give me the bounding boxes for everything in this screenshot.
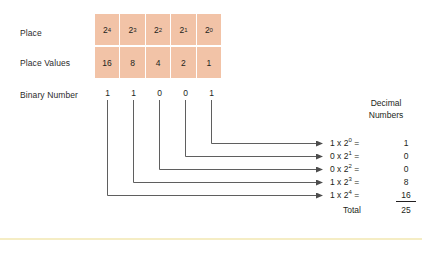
place-base-4: 2	[205, 25, 210, 35]
place-value-cell-3: 2	[171, 47, 195, 78]
binary-place-value-figure: Place Place Values Binary Number 24 23 2…	[0, 0, 422, 253]
binary-digit-3: 0	[180, 88, 192, 98]
connector-bit-2	[160, 100, 323, 170]
equation-op-2: x 2	[335, 164, 349, 174]
total-label: Total	[343, 205, 361, 215]
binary-digit-4: 1	[206, 88, 218, 98]
equation-value-2: 0	[396, 164, 416, 174]
equation-expression-3: 1 x 23 =	[330, 177, 359, 187]
row-label-binary-number: Binary Number	[20, 90, 78, 100]
equation-equals-3: =	[352, 177, 359, 187]
equation-value-1: 0	[396, 151, 416, 161]
place-base-2: 2	[154, 25, 159, 35]
total-value: 25	[396, 205, 416, 215]
place-value-cell-4: 1	[197, 47, 221, 78]
place-cell-4: 20	[197, 14, 221, 45]
connector-bit-1	[186, 100, 323, 157]
connector-bit-0	[212, 100, 323, 144]
equation-op-3: x 2	[335, 177, 349, 187]
binary-digit-2: 0	[154, 88, 166, 98]
place-value-table: 24 23 22 21 20 16 8 4 2 1	[95, 14, 221, 78]
equation-row-4: 1 x 24 = 16	[330, 190, 416, 203]
row-label-place: Place	[20, 28, 42, 38]
row-label-place-values: Place Values	[20, 58, 70, 68]
connector-bit-4	[108, 100, 323, 196]
equation-op-0: x 2	[335, 138, 349, 148]
decimal-numbers-heading: Decimal Numbers	[358, 98, 414, 121]
total-row: Total 25	[330, 205, 416, 218]
place-value-cell-1: 8	[120, 47, 144, 78]
equation-equals-0: =	[352, 138, 359, 148]
binary-digit-0: 1	[102, 88, 114, 98]
table-row-place: 24 23 22 21 20	[95, 14, 221, 45]
equation-value-4: 16	[396, 190, 416, 202]
equation-expression-0: 1 x 20 =	[330, 138, 359, 148]
equation-row-0: 1 x 20 = 1	[330, 138, 416, 151]
place-cell-3: 21	[171, 14, 195, 45]
equation-row-1: 0 x 21 = 0	[330, 151, 416, 164]
connector-bit-3	[134, 100, 323, 183]
equation-op-4: x 2	[335, 190, 349, 200]
equation-value-0: 1	[396, 138, 416, 148]
equation-expression-2: 0 x 22 =	[330, 164, 359, 174]
place-cell-2: 22	[146, 14, 170, 45]
equation-equals-1: =	[352, 151, 359, 161]
equation-op-1: x 2	[335, 151, 349, 161]
place-value-cell-0: 16	[95, 47, 119, 78]
equation-expression-4: 1 x 24 =	[330, 190, 359, 200]
place-cell-1: 23	[120, 14, 144, 45]
equation-value-3: 8	[396, 177, 416, 187]
bottom-divider	[0, 238, 422, 240]
equation-equals-2: =	[352, 164, 359, 174]
equation-equals-4: =	[352, 190, 359, 200]
place-value-cell-2: 4	[146, 47, 170, 78]
decimal-heading-line-2: Numbers	[358, 110, 414, 122]
equation-row-2: 0 x 22 = 0	[330, 164, 416, 177]
table-row-place-values: 16 8 4 2 1	[95, 47, 221, 78]
place-cell-0: 24	[95, 14, 119, 45]
equation-expression-1: 0 x 21 =	[330, 151, 359, 161]
binary-digit-1: 1	[128, 88, 140, 98]
equation-row-3: 1 x 23 = 8	[330, 177, 416, 190]
decimal-heading-line-1: Decimal	[358, 98, 414, 110]
